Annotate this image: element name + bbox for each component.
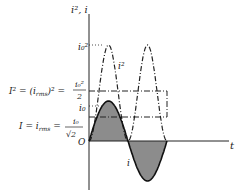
peak-label: i₀ bbox=[79, 103, 86, 113]
rms-lhs: I = irms= bbox=[18, 121, 61, 132]
origin-label: O bbox=[78, 137, 86, 147]
ac-rms-diagram: i², i t O i₀² i₀ i² i I² = (irms)² = i₀²… bbox=[0, 0, 242, 191]
rms-numerator: i₀ bbox=[73, 117, 80, 126]
curve-square-label: i² bbox=[118, 61, 125, 71]
y-axis-label: i², i bbox=[71, 4, 88, 15]
mean-square-lhs: I² = (irms)² = bbox=[8, 86, 65, 97]
mean-square-denominator: 2 bbox=[76, 92, 82, 101]
rms-denominator: √2 bbox=[66, 130, 76, 139]
mean-square-numerator: i₀² bbox=[75, 80, 84, 89]
t-axis-label: t bbox=[230, 140, 235, 151]
curve-current-label: i bbox=[127, 158, 130, 168]
peak-square-label: i₀² bbox=[78, 42, 88, 52]
